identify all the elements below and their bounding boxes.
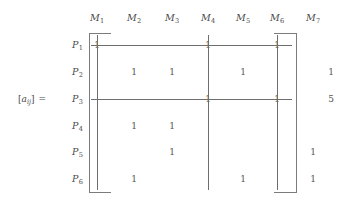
row-header-p5-base: P xyxy=(72,146,78,157)
row-header-p4: P4 xyxy=(72,121,83,131)
row-header-p4-subscript: 4 xyxy=(79,125,83,133)
row-header-p1: P1 xyxy=(72,40,83,50)
column-header-m6-subscript: 6 xyxy=(280,17,284,25)
row-annotation-p2: 1 xyxy=(328,68,334,77)
column-header-m3-subscript: 3 xyxy=(175,17,179,25)
incidence-matrix-figure: [aij]= M1M2M3M4M5M6M7P1P2P3P4P5P6 111111… xyxy=(0,0,353,210)
bracket-bottom-right-arm xyxy=(274,192,297,193)
row-header-p1-base: P xyxy=(72,39,78,50)
cover-line-horizontal-p3 xyxy=(91,99,292,100)
matrix-label-equals: = xyxy=(39,94,47,104)
column-header-m4-subscript: 4 xyxy=(211,17,215,25)
column-header-m4-base: M xyxy=(201,12,211,23)
column-header-m3-base: M xyxy=(165,12,175,23)
matrix-cell-p6-m7: 1 xyxy=(310,175,316,184)
bracket-bottom-left-arm xyxy=(89,192,111,193)
column-header-m1: M1 xyxy=(90,13,104,23)
bracket-top-right-arm xyxy=(274,33,297,34)
matrix-label-close-bracket: ] xyxy=(31,94,35,104)
row-header-p2-subscript: 2 xyxy=(79,71,83,79)
column-header-m5-base: M xyxy=(236,12,246,23)
matrix-label: [aij]= xyxy=(18,95,46,104)
row-annotation-p3: 5 xyxy=(328,95,334,104)
column-header-m7: M7 xyxy=(306,13,320,23)
column-header-m4: M4 xyxy=(201,13,215,23)
row-header-p6-subscript: 6 xyxy=(79,178,83,186)
column-header-m5-subscript: 5 xyxy=(246,17,250,25)
row-header-p2-base: P xyxy=(72,66,78,77)
column-header-m6-base: M xyxy=(270,12,280,23)
row-header-p5: P5 xyxy=(72,147,83,157)
matrix-cell-p5-m3: 1 xyxy=(169,148,175,157)
column-header-m5: M5 xyxy=(236,13,250,23)
cover-line-vertical-m4 xyxy=(208,35,209,190)
matrix-cell-p6-m5: 1 xyxy=(240,175,246,184)
row-header-p5-subscript: 5 xyxy=(79,151,83,159)
row-header-p4-base: P xyxy=(72,120,78,131)
matrix-cell-p2-m2: 1 xyxy=(131,68,137,77)
matrix-cell-p4-m2: 1 xyxy=(131,122,137,131)
matrix-cell-p2-m3: 1 xyxy=(169,68,175,77)
column-header-m2-subscript: 2 xyxy=(137,17,141,25)
column-header-m2-base: M xyxy=(127,12,137,23)
bracket-left-stem xyxy=(89,33,90,192)
matrix-cell-p2-m5: 1 xyxy=(240,68,246,77)
bracket-top-left-arm xyxy=(89,33,111,34)
column-header-m2: M2 xyxy=(127,13,141,23)
row-header-p3-subscript: 3 xyxy=(79,98,83,106)
column-header-m1-base: M xyxy=(90,12,100,23)
column-header-m7-subscript: 7 xyxy=(316,17,320,25)
row-header-p6-base: P xyxy=(72,173,78,184)
bracket-right-stem xyxy=(296,33,297,192)
cover-line-vertical-m1 xyxy=(97,35,98,190)
column-header-m1-subscript: 1 xyxy=(100,17,104,25)
column-header-m6: M6 xyxy=(270,13,284,23)
row-header-p6: P6 xyxy=(72,174,83,184)
row-header-p2: P2 xyxy=(72,67,83,77)
column-header-m3: M3 xyxy=(165,13,179,23)
row-header-p3-base: P xyxy=(72,93,78,104)
cover-line-horizontal-p1 xyxy=(91,45,292,46)
matrix-cell-p6-m2: 1 xyxy=(131,175,137,184)
matrix-cell-p5-m7: 1 xyxy=(310,148,316,157)
row-header-p3: P3 xyxy=(72,94,83,104)
column-header-m7-base: M xyxy=(306,12,316,23)
cover-line-vertical-m6 xyxy=(277,35,278,190)
matrix-cell-p4-m3: 1 xyxy=(169,122,175,131)
matrix-label-subscript: ij xyxy=(27,98,31,106)
row-header-p1-subscript: 1 xyxy=(79,44,83,52)
